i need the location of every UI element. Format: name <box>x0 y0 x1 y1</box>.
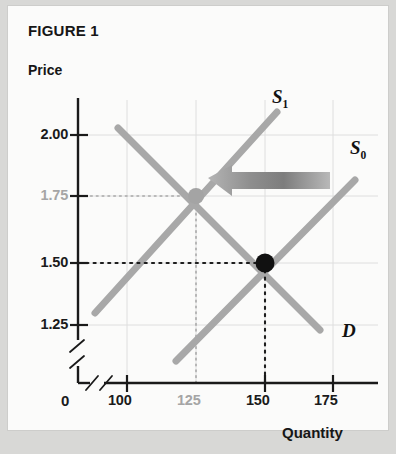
curve-label-d: D <box>342 320 356 342</box>
x-tick-label-175: 175 <box>314 392 338 408</box>
y-axis-break <box>70 340 84 368</box>
x-tick-label-100: 100 <box>108 392 132 408</box>
x-tick-label-origin: 0 <box>61 392 69 409</box>
guides-equilibrium-original <box>79 263 265 383</box>
y-tick-label-150: 1.50 <box>14 254 68 270</box>
supply-demand-plot <box>0 0 396 454</box>
curve-label-s1: S1 <box>272 86 288 110</box>
y-tick-label-200: 2.00 <box>14 126 68 142</box>
curve-label-s0-text: S <box>350 137 361 158</box>
equilibrium-point-new <box>188 188 204 204</box>
x-tick-label-150: 150 <box>246 392 270 408</box>
x-tick-label-125: 125 <box>177 392 201 408</box>
curve-label-s0: S0 <box>350 137 366 161</box>
demand-curve <box>118 128 320 330</box>
y-tick-label-175: 1.75 <box>14 187 68 203</box>
supply-shift-arrow <box>208 165 330 196</box>
y-tick-label-125: 1.25 <box>14 316 68 332</box>
curve-label-s1-text: S <box>272 86 283 107</box>
curve-label-s0-subscript: 0 <box>361 149 367 161</box>
curve-label-s1-subscript: 1 <box>283 98 289 110</box>
equilibrium-point-original <box>256 254 275 273</box>
